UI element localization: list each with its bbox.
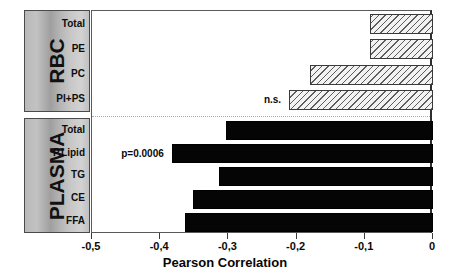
category-label-plasma-ce: CE: [25, 187, 89, 210]
bar-plasma-p-lipid: [172, 144, 433, 162]
bar-plasma-ce: [193, 190, 433, 208]
group-label-box-plasma: PLASMA Total P.Lipid TG CE FFA: [24, 118, 90, 233]
bar-plasma-ffa: [185, 213, 433, 231]
x-tick-5: [432, 233, 433, 239]
x-tick-label-0: -0,5: [82, 241, 101, 252]
chart-figure: RBC Total PE PC PI+PS PLASMA Total P.Lip…: [0, 0, 450, 280]
category-label-rbc-pe: PE: [25, 36, 89, 61]
category-label-plasma-ffa: FFA: [25, 209, 89, 232]
x-tick-label-1: -0,4: [150, 241, 169, 252]
x-tick-label-2: -0,3: [218, 241, 237, 252]
category-labels-rbc: Total PE PC PI+PS: [25, 11, 89, 111]
x-tick-2: [227, 233, 228, 239]
group-divider: [92, 116, 430, 117]
category-label-rbc-pips: PI+PS: [25, 86, 89, 111]
x-tick-3: [296, 233, 297, 239]
x-tick-0: [91, 233, 92, 239]
category-label-plasma-tg: TG: [25, 164, 89, 187]
x-tick-label-5: 0: [429, 241, 435, 252]
x-tick-label-4: -0,1: [354, 241, 373, 252]
plot-area: n.s.p=0.0006: [91, 10, 432, 233]
category-label-rbc-pc: PC: [25, 61, 89, 86]
x-tick-label-3: -0,2: [286, 241, 305, 252]
x-axis-title: Pearson Correlation: [0, 256, 450, 269]
bar-rbc-pe: [370, 39, 433, 59]
bar-plasma-total: [226, 121, 433, 139]
bar-rbc-pc: [310, 65, 433, 85]
category-label-plasma-plipid: P.Lipid: [25, 142, 89, 165]
category-labels-plasma: Total P.Lipid TG CE FFA: [25, 119, 89, 232]
x-tick-4: [364, 233, 365, 239]
bar-rbc-pi-ps: [289, 90, 433, 110]
bar-plasma-tg: [219, 167, 433, 185]
group-label-box-rbc: RBC Total PE PC PI+PS: [24, 10, 90, 112]
x-tick-1: [159, 233, 160, 239]
annotation-p-0-0006: p=0.0006: [121, 149, 164, 159]
plot-inner: n.s.p=0.0006: [92, 11, 430, 232]
annotation-n-s-: n.s.: [264, 95, 281, 105]
category-label-rbc-total: Total: [25, 11, 89, 36]
category-label-plasma-total: Total: [25, 119, 89, 142]
bar-rbc-total: [370, 14, 433, 34]
